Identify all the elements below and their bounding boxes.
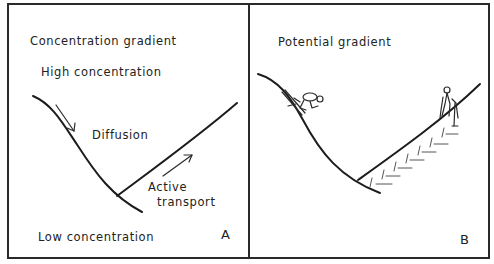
panel-a-active-transport-line <box>117 103 237 196</box>
diagram-drawing <box>0 0 494 264</box>
skier-icon <box>282 90 323 115</box>
climber-icon <box>440 87 458 126</box>
panel-b-downhill-curve <box>258 74 380 193</box>
panel-b-uphill-line <box>358 84 480 180</box>
panel-a-diffusion-curve <box>33 96 142 212</box>
slope-hatching <box>370 128 458 187</box>
